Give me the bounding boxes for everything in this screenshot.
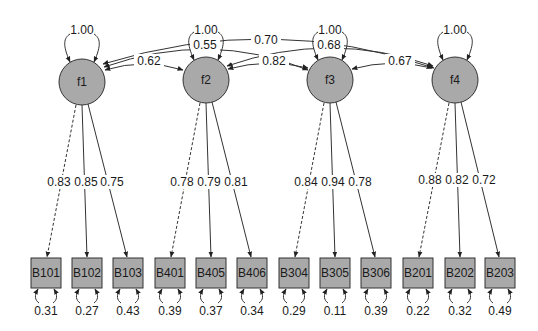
residual-loops (35, 289, 510, 303)
svg-text:f3: f3 (325, 73, 335, 87)
svg-text:B401: B401 (156, 266, 184, 280)
indicator-B304: B304 (279, 258, 309, 288)
residual-B203: 0.49 (488, 304, 512, 318)
loading-B401: 0.78 (170, 175, 194, 189)
svg-text:B102: B102 (73, 266, 101, 280)
residual-B304: 0.29 (282, 304, 306, 318)
indicator-nodes: B101 B102 B103 B401 B405 B406 B304 B305 … (31, 258, 515, 288)
variance-f2: 1.00 (194, 23, 218, 37)
variance-f3: 1.00 (318, 23, 342, 37)
svg-text:B202: B202 (446, 266, 474, 280)
cov-label-f1-f4: 0.70 (254, 33, 278, 47)
svg-text:f2: f2 (201, 73, 211, 87)
indicator-B401: B401 (155, 258, 185, 288)
cov-label-f2-f4: 0.68 (317, 38, 341, 52)
residual-B202: 0.32 (448, 304, 472, 318)
residual-B406: 0.34 (240, 304, 264, 318)
loading-B201: 0.88 (418, 173, 442, 187)
residual-B306: 0.39 (364, 304, 388, 318)
indicator-B203: B203 (485, 258, 515, 288)
residual-B305: 0.11 (324, 304, 347, 318)
svg-text:B203: B203 (486, 266, 514, 280)
factor-f4: f4 (432, 57, 478, 103)
residual-labels: 0.31 0.27 0.43 0.39 0.37 0.34 0.29 0.11 … (34, 304, 512, 318)
svg-text:B306: B306 (362, 266, 390, 280)
residual-B401: 0.39 (158, 304, 182, 318)
indicator-B405: B405 (196, 258, 226, 288)
residual-B103: 0.43 (116, 304, 140, 318)
loading-B304: 0.84 (294, 175, 318, 189)
indicator-B201: B201 (403, 258, 433, 288)
residual-B405: 0.37 (199, 304, 223, 318)
indicator-B305: B305 (320, 258, 350, 288)
loading-B406: 0.81 (224, 175, 248, 189)
svg-text:B304: B304 (280, 266, 308, 280)
factor-f3: f3 (307, 57, 353, 103)
svg-text:B201: B201 (404, 266, 432, 280)
cov-label-f1-f3: 0.55 (193, 38, 217, 52)
residual-B102: 0.27 (75, 304, 99, 318)
svg-text:B405: B405 (197, 266, 225, 280)
indicator-B306: B306 (361, 258, 391, 288)
variance-f1: 1.00 (70, 23, 94, 37)
loading-B405: 0.79 (197, 175, 221, 189)
cov-label-f1-f2: 0.62 (137, 54, 161, 68)
svg-text:f1: f1 (77, 75, 87, 89)
loading-B103: 0.75 (100, 175, 124, 189)
loading-B305: 0.94 (321, 175, 345, 189)
variance-f4: 1.00 (443, 23, 467, 37)
loading-B306: 0.78 (348, 175, 372, 189)
cov-label-f2-f3: 0.82 (262, 54, 286, 68)
factor-f2: f2 (183, 57, 229, 103)
svg-text:B103: B103 (114, 266, 142, 280)
svg-text:B305: B305 (321, 266, 349, 280)
indicator-B101: B101 (31, 258, 61, 288)
residual-B101: 0.31 (34, 304, 58, 318)
indicator-B103: B103 (113, 258, 143, 288)
factor-f1: f1 (59, 59, 105, 105)
cov-label-f3-f4: 0.67 (388, 54, 412, 68)
residual-B201: 0.22 (406, 304, 430, 318)
loading-B102: 0.85 (74, 175, 98, 189)
path-diagram: 0.62 0.55 0.70 0.82 0.68 0.67 1.00 1.00 … (0, 0, 538, 331)
indicator-B406: B406 (237, 258, 267, 288)
loading-B203: 0.72 (472, 173, 496, 187)
indicator-B202: B202 (445, 258, 475, 288)
loading-labels: 0.83 0.85 0.75 0.78 0.79 0.81 0.84 0.94 … (42, 173, 512, 189)
svg-text:B101: B101 (32, 266, 60, 280)
indicator-B102: B102 (72, 258, 102, 288)
loading-B101: 0.83 (47, 175, 71, 189)
svg-text:B406: B406 (238, 266, 266, 280)
loading-B202: 0.82 (445, 173, 469, 187)
svg-text:f4: f4 (450, 73, 460, 87)
